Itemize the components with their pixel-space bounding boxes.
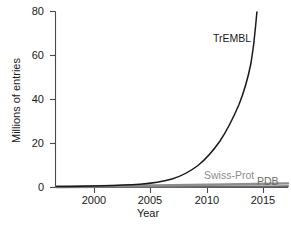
y-tick-label-80: 80: [18, 6, 44, 17]
y-tick-label-60: 60: [18, 50, 44, 61]
x-axis-label: Year: [118, 208, 178, 219]
x-tick-label-2005: 2005: [130, 195, 170, 206]
y-axis-ticks: [50, 12, 56, 188]
series-label-swissprot: Swiss-Prot: [204, 170, 254, 181]
y-tick-label-40: 40: [18, 94, 44, 105]
y-axis-label: Millions of entries: [11, 41, 22, 161]
x-tick-label-2015: 2015: [243, 195, 283, 206]
series-label-trembl: TrEMBL: [213, 33, 251, 44]
y-tick-label-0: 0: [18, 182, 44, 193]
x-tick-label-2010: 2010: [187, 195, 227, 206]
x-tick-label-2000: 2000: [74, 195, 114, 206]
y-tick-label-20: 20: [18, 138, 44, 149]
chart-container: 80 60 40 20 0 2000 2005 2010 2015 Millio…: [0, 0, 291, 227]
x-axis-ticks: [95, 188, 264, 194]
series-label-pdb: PDB: [257, 176, 279, 187]
